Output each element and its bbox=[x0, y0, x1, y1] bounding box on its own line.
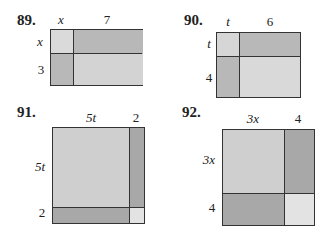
area-model bbox=[50, 29, 143, 86]
cell-bottom-left bbox=[53, 208, 130, 223]
divider bbox=[217, 56, 300, 57]
cell-top-right bbox=[240, 33, 300, 57]
cell-top-right bbox=[285, 130, 314, 194]
cell-small-square bbox=[51, 30, 74, 54]
top-label-2: 2 bbox=[133, 110, 140, 126]
left-label-2: 3 bbox=[38, 62, 45, 78]
divider bbox=[51, 53, 142, 54]
left-label-2: 4 bbox=[206, 70, 213, 86]
divider bbox=[129, 128, 130, 223]
divider bbox=[53, 207, 144, 208]
cell-small-square bbox=[285, 194, 314, 225]
area-model bbox=[52, 127, 145, 224]
top-label-1: x bbox=[58, 12, 64, 28]
top-label-2: 4 bbox=[295, 111, 302, 127]
left-label-1: 3x bbox=[203, 152, 215, 168]
divider bbox=[73, 30, 74, 85]
left-label-2: 4 bbox=[209, 200, 216, 216]
cell-small-square bbox=[217, 33, 240, 57]
top-label-1: 5t bbox=[86, 110, 96, 126]
cell-bottom-left bbox=[217, 57, 240, 97]
area-model bbox=[222, 129, 315, 226]
cell-large-square bbox=[223, 130, 285, 194]
left-label-1: x bbox=[37, 34, 43, 50]
top-label-1: t bbox=[226, 14, 230, 30]
top-label-1: 3x bbox=[247, 111, 259, 127]
cell-top-right bbox=[74, 30, 143, 54]
area-model bbox=[216, 32, 301, 98]
top-label-2: 7 bbox=[104, 12, 111, 28]
cell-large-square bbox=[53, 128, 130, 208]
cell-bottom-right bbox=[240, 57, 300, 97]
left-label-1: 5t bbox=[35, 159, 45, 175]
cell-bottom-left bbox=[51, 54, 74, 85]
cell-small-square bbox=[130, 208, 144, 223]
problem-number: 91. bbox=[17, 104, 36, 121]
cell-top-right bbox=[130, 128, 144, 208]
cell-bottom-left bbox=[223, 194, 285, 225]
cell-bottom-right bbox=[74, 54, 143, 85]
top-label-2: 6 bbox=[267, 14, 274, 30]
problem-number: 89. bbox=[17, 12, 36, 29]
divider bbox=[284, 130, 285, 225]
left-label-1: t bbox=[207, 36, 211, 52]
divider bbox=[223, 193, 314, 194]
left-label-2: 2 bbox=[39, 205, 46, 221]
divider bbox=[239, 33, 240, 97]
problem-number: 92. bbox=[182, 104, 201, 121]
problem-number: 90. bbox=[184, 12, 203, 29]
